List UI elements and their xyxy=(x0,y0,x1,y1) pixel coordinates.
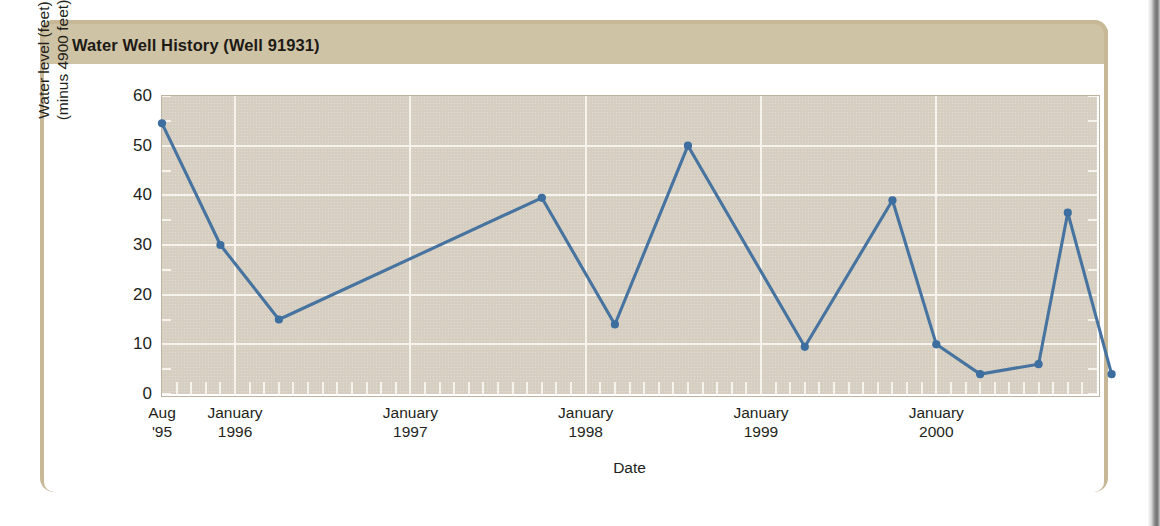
card-title-bar: Water Well History (Well 91931) xyxy=(40,20,1108,64)
x-axis-tick-label-line-1: January xyxy=(350,404,470,423)
scanned-page-edge xyxy=(1144,0,1160,526)
card-body: 0102030405060 Water level (feet) (minus … xyxy=(44,64,1104,492)
page-title: Water Well History (Well 91931) xyxy=(72,36,320,55)
x-axis-tick-label-line-2: 1999 xyxy=(701,423,821,442)
x-axis-tick-label-line-2: 1996 xyxy=(175,423,295,442)
x-axis-tick-label: January1999 xyxy=(701,404,821,442)
x-axis-tick-label-line-1: January xyxy=(876,404,996,423)
x-axis-tick-label-line-1: January xyxy=(526,404,646,423)
figure-card: Water Well History (Well 91931) 01020304… xyxy=(40,20,1108,492)
y-axis-tick-label: 30 xyxy=(108,236,152,253)
line-chart: 0102030405060 Water level (feet) (minus … xyxy=(44,64,1104,492)
x-axis-tick-label: January1996 xyxy=(175,404,295,442)
y-axis-tick-label: 0 xyxy=(108,385,152,402)
y-axis-tick-label: 10 xyxy=(108,335,152,352)
y-axis-title: Water level (feet) (minus 4900 feet) xyxy=(34,0,72,160)
x-axis-tick-label-line-1: January xyxy=(701,404,821,423)
y-axis-tick-label: 60 xyxy=(108,87,152,104)
y-axis-tick-label: 20 xyxy=(108,286,152,303)
x-axis-tick-label: January1998 xyxy=(526,404,646,442)
y-axis-tick-label: 50 xyxy=(108,137,152,154)
x-axis-tick-label-line-2: 1998 xyxy=(526,423,646,442)
x-axis-tick-label-line-1: January xyxy=(175,404,295,423)
x-axis-tick-label: January2000 xyxy=(876,404,996,442)
x-axis-tick-label: January1997 xyxy=(350,404,470,442)
y-axis-title-line-2: (minus 4900 feet) xyxy=(53,0,72,160)
y-axis-tick-label: 40 xyxy=(108,186,152,203)
x-axis-tick-label-line-2: 1997 xyxy=(350,423,470,442)
x-axis-title: Date xyxy=(162,459,1097,477)
x-axis-tick-label-line-2: 2000 xyxy=(876,423,996,442)
y-axis-title-line-1: Water level (feet) xyxy=(34,0,53,160)
data-point xyxy=(1108,370,1116,378)
